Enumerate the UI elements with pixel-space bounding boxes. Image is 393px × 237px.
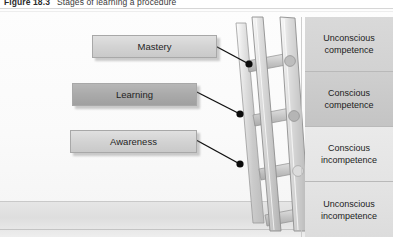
leader-dot-awareness bbox=[236, 160, 243, 167]
stage-label-awareness: Awareness bbox=[110, 136, 157, 147]
stage-box-mastery[interactable]: Mastery bbox=[92, 35, 217, 58]
band-line-1: Conscious bbox=[328, 142, 370, 154]
band-line-2: incompetence bbox=[321, 154, 377, 166]
band-line-2: competence bbox=[324, 44, 373, 56]
competence-band-conscious-competence: Conscious competence bbox=[305, 72, 393, 127]
figure-caption: Figure 18.3Stages of learning a procedur… bbox=[4, 0, 176, 7]
band-line-1: Conscious bbox=[328, 87, 370, 99]
canvas-top-rule bbox=[0, 11, 393, 12]
figure-number: Figure 18.3 bbox=[4, 0, 50, 7]
band-line-2: incompetence bbox=[321, 210, 377, 222]
band-line-2: competence bbox=[324, 99, 373, 111]
stage-box-learning[interactable]: Learning bbox=[72, 83, 197, 106]
leader-dot-learning bbox=[236, 110, 243, 117]
figure-canvas: Mastery Learning Awareness Unconscious c… bbox=[0, 8, 393, 237]
ladder-bolt-icon bbox=[289, 111, 300, 122]
band-line-1: Unconscious bbox=[323, 198, 375, 210]
band-vertical-rule bbox=[301, 17, 302, 237]
figure-caption-text: Stages of learning a procedure bbox=[57, 0, 176, 7]
ladder-bolt-icon bbox=[285, 56, 296, 67]
competence-band-conscious-incompetence: Conscious incompetence bbox=[305, 127, 393, 182]
stage-label-learning: Learning bbox=[116, 89, 153, 100]
competence-band-column: Unconscious competence Conscious compete… bbox=[305, 17, 393, 237]
stage-box-awareness[interactable]: Awareness bbox=[70, 130, 197, 153]
band-line-1: Unconscious bbox=[323, 32, 375, 44]
competence-band-unconscious-competence: Unconscious competence bbox=[305, 17, 393, 72]
leader-dot-mastery bbox=[245, 60, 252, 67]
stage-label-mastery: Mastery bbox=[138, 41, 172, 52]
competence-band-unconscious-incompetence: Unconscious incompetence bbox=[305, 182, 393, 237]
